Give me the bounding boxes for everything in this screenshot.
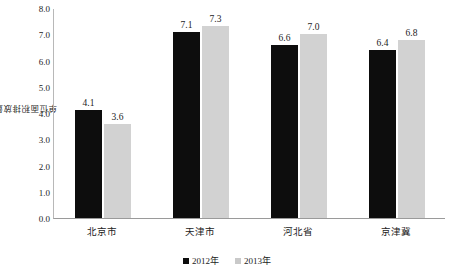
bar-value-label: 7.0 bbox=[308, 22, 320, 32]
bar-group: 7.17.3 bbox=[173, 9, 229, 218]
bar-value-label: 3.6 bbox=[112, 112, 124, 122]
bar[interactable] bbox=[271, 45, 298, 218]
bar-group: 6.67.0 bbox=[271, 9, 327, 218]
bar[interactable] bbox=[173, 32, 200, 218]
y-tick-label: 5.0 bbox=[4, 83, 50, 93]
bar-group: 4.13.6 bbox=[75, 9, 131, 218]
bar-value-label: 6.4 bbox=[377, 38, 389, 48]
x-tick-label: 京津冀 bbox=[381, 224, 411, 238]
x-tick-label: 天津市 bbox=[185, 224, 215, 238]
y-tick-label: 1.0 bbox=[4, 188, 50, 198]
legend-swatch-icon bbox=[183, 258, 189, 264]
legend-label: 2012年 bbox=[192, 254, 219, 267]
legend-item[interactable]: 2013年 bbox=[235, 254, 271, 267]
bar[interactable] bbox=[202, 26, 229, 218]
bar-value-label: 4.1 bbox=[83, 98, 95, 108]
bar-value-label: 7.1 bbox=[181, 20, 193, 30]
x-tick-label: 河北省 bbox=[283, 224, 313, 238]
bar-group: 6.46.8 bbox=[369, 9, 425, 218]
chart-legend: 2012年2013年 bbox=[0, 254, 454, 267]
bar-chart: 单位面积排放量(t/km²) 8.07.06.05.04.03.02.01.00… bbox=[0, 0, 454, 278]
y-axis-tick-labels: 8.07.06.05.04.03.02.01.00.0 bbox=[0, 9, 50, 219]
plot-area: 4.13.67.17.36.67.06.46.8 bbox=[53, 9, 445, 219]
bar[interactable] bbox=[75, 110, 102, 218]
legend-label: 2013年 bbox=[244, 254, 271, 267]
bar-value-label: 6.8 bbox=[406, 28, 418, 38]
bar[interactable] bbox=[104, 124, 131, 219]
y-tick-label: 6.0 bbox=[4, 57, 50, 67]
bar-value-label: 6.6 bbox=[279, 33, 291, 43]
y-tick-label: 7.0 bbox=[4, 30, 50, 40]
legend-swatch-icon bbox=[235, 258, 241, 264]
y-tick-label: 3.0 bbox=[4, 135, 50, 145]
y-tick-label: 8.0 bbox=[4, 4, 50, 14]
x-tick-label: 北京市 bbox=[87, 224, 117, 238]
y-tick-label: 4.0 bbox=[4, 109, 50, 119]
y-tick-label: 2.0 bbox=[4, 162, 50, 172]
legend-item[interactable]: 2012年 bbox=[183, 254, 219, 267]
bar[interactable] bbox=[300, 34, 327, 218]
bar[interactable] bbox=[398, 40, 425, 219]
x-axis-tick-labels: 北京市天津市河北省京津冀 bbox=[53, 224, 445, 244]
bar[interactable] bbox=[369, 50, 396, 218]
bar-value-label: 7.3 bbox=[210, 14, 222, 24]
y-tick-label: 0.0 bbox=[4, 214, 50, 224]
